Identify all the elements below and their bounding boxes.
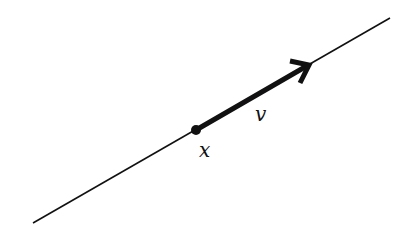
point-label-x: x <box>199 140 210 160</box>
diagram-svg <box>0 0 414 239</box>
diagram-canvas: x v <box>0 0 414 239</box>
point-x-dot <box>191 125 201 135</box>
vector-label-v: v <box>255 104 266 124</box>
vector-arrow-shaft <box>196 67 305 130</box>
